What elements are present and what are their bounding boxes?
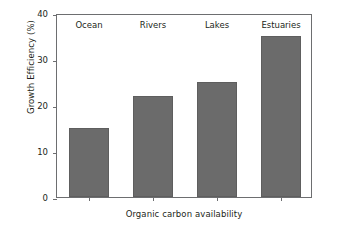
category-label-ocean: Ocean — [57, 21, 121, 30]
x-axis-tick — [217, 197, 218, 201]
category-label-rivers: Rivers — [121, 21, 185, 30]
y-axis-tick — [53, 107, 57, 108]
y-axis-tick-label: 20 — [26, 102, 48, 111]
x-axis-tick — [281, 197, 282, 201]
y-axis-tick — [53, 61, 57, 62]
plot-area: OceanRiversLakesEstuaries — [56, 14, 312, 198]
bar-estuaries — [261, 36, 301, 197]
y-axis-tick-label: 0 — [26, 194, 48, 203]
y-axis-tick-label: 10 — [26, 148, 48, 157]
category-label-lakes: Lakes — [185, 21, 249, 30]
y-axis-tick — [53, 199, 57, 200]
category-label-estuaries: Estuaries — [249, 21, 313, 30]
y-axis-tick-label: 40 — [26, 10, 48, 19]
y-axis-tick — [53, 153, 57, 154]
bar-lakes — [197, 82, 237, 197]
y-axis-tick-labels: 010203040 — [22, 0, 48, 229]
x-axis-tick — [89, 197, 90, 201]
x-axis-title: Organic carbon availability — [56, 209, 312, 219]
bar-rivers — [133, 96, 173, 197]
bar-ocean — [69, 128, 109, 197]
x-axis-tick — [153, 197, 154, 201]
y-axis-tick — [53, 15, 57, 16]
y-axis-tick-label: 30 — [26, 56, 48, 65]
bar-chart-figure: Growth Efficiency (%) 010203040 OceanRiv… — [0, 0, 339, 229]
